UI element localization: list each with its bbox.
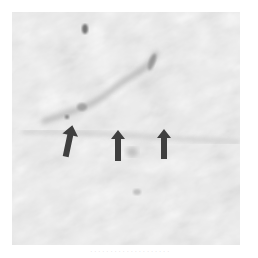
micrograph-panel bbox=[12, 12, 240, 245]
micrograph-texture bbox=[12, 12, 240, 245]
figure-caption: · · · · · · · · · · · · · · · · · · · · bbox=[40, 248, 220, 256]
arrow-icon bbox=[60, 124, 78, 158]
arrow-icon bbox=[110, 129, 126, 162]
arrow-icon bbox=[156, 128, 172, 160]
